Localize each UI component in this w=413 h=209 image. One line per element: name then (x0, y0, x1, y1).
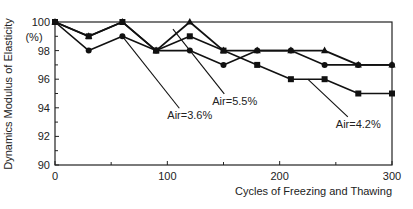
chart: 90929496981000100200300 Air=3.6%Air=5.5%… (0, 0, 413, 209)
marker-circle (389, 62, 395, 68)
annotation-label-air-4-2-: Air=4.2% (336, 118, 381, 130)
y-tick-label: 98 (38, 45, 50, 57)
marker-circle (355, 62, 361, 68)
marker-circle (153, 48, 159, 54)
x-axis-title: Cycles of Freezing and Thawing (235, 185, 392, 197)
x-tick-label: 100 (158, 170, 176, 182)
y-tick-label: 90 (38, 159, 50, 171)
marker-circle (322, 62, 328, 68)
marker-square (119, 19, 125, 25)
annotation-leader-air-4-2- (308, 79, 348, 117)
marker-square (389, 91, 395, 97)
y-axis-unit: (%) (25, 31, 42, 43)
x-tick-label: 0 (52, 170, 58, 182)
marker-square (322, 76, 328, 82)
y-tick-label: 100 (32, 16, 50, 28)
y-tick-label: 92 (38, 130, 50, 142)
x-tick-label: 300 (383, 170, 401, 182)
marker-square (288, 76, 294, 82)
marker-square (254, 62, 260, 68)
y-tick-label: 94 (38, 102, 50, 114)
annotation-label-air-5-5-: Air=5.5% (212, 95, 257, 107)
annotation-label-air-3-6-: Air=3.6% (167, 109, 212, 121)
y-tick-label: 96 (38, 73, 50, 85)
marker-triangle (186, 18, 193, 25)
y-axis-title: Dynamics Modulus of Elasticity (2, 18, 14, 170)
marker-circle (52, 19, 58, 25)
marker-square (221, 48, 227, 54)
marker-circle (254, 48, 260, 54)
marker-circle (221, 62, 227, 68)
marker-square (187, 33, 193, 39)
marker-circle (288, 48, 294, 54)
x-tick-label: 200 (270, 170, 288, 182)
marker-square (86, 33, 92, 39)
marker-square (355, 91, 361, 97)
marker-circle (86, 48, 92, 54)
